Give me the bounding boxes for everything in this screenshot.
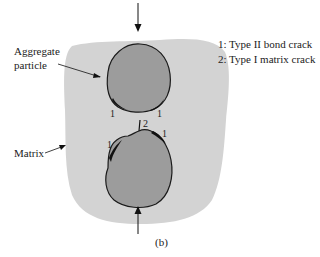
lower-aggregate-particle [106, 130, 172, 208]
crack-mark-upper-right: 1 [157, 108, 162, 119]
top-load-arrow [135, 3, 142, 32]
matrix-pointer-arrow [45, 145, 66, 153]
crack-mark-upper-left: 1 [110, 108, 115, 119]
crack-mark-matrix: 2 [143, 118, 148, 129]
aggregate-label-line1: Aggregate [14, 45, 60, 57]
upper-aggregate-particle [107, 44, 170, 112]
legend-item-1: 1: Type II bond crack [218, 38, 313, 50]
aggregate-label-line2: particle [14, 59, 47, 71]
figure-caption: (b) [155, 236, 168, 249]
legend-item-2: 2: Type I matrix crack [218, 53, 316, 65]
matrix-label: Matrix [14, 147, 44, 159]
crack-mark-lower-right: 1 [162, 128, 167, 139]
crack-mark-lower-left: 1 [107, 139, 112, 150]
diagram-canvas: Aggregate particle Matrix 1: Type II bon… [0, 0, 320, 257]
